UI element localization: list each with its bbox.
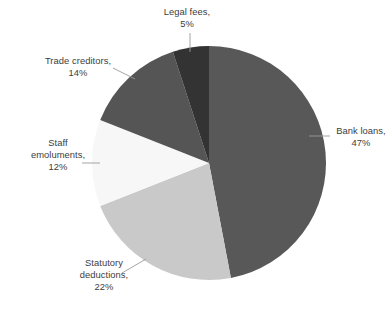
pie-label-staff-emoluments-line3: 12%: [2, 161, 114, 173]
pie-label-statutory-deductions-line1: Statutory: [42, 257, 166, 269]
pie-label-trade-creditors: Trade creditors, 14%: [16, 55, 140, 79]
pie-chart: Legal fees, 5% Trade creditors, 14% Staf…: [0, 0, 392, 310]
pie-label-bank-loans: Bank loans, 47%: [330, 125, 392, 149]
pie-label-staff-emoluments: Staff emoluments, 12%: [2, 137, 114, 174]
pie-label-legal-fees-line1: Legal fees,: [132, 6, 242, 18]
pie-label-bank-loans-line1: Bank loans,: [330, 125, 392, 137]
pie-label-legal-fees-line2: 5%: [132, 18, 242, 30]
pie-slice-bank-loans[interactable]: [209, 46, 326, 278]
pie-label-staff-emoluments-line2: emoluments,: [2, 149, 114, 161]
pie-label-trade-creditors-line2: 14%: [16, 67, 140, 79]
pie-label-statutory-deductions: Statutory deductions, 22%: [42, 257, 166, 294]
pie-label-bank-loans-line2: 47%: [330, 137, 392, 149]
pie-label-statutory-deductions-line3: 22%: [42, 281, 166, 293]
pie-label-staff-emoluments-line1: Staff: [2, 137, 114, 149]
pie-label-legal-fees: Legal fees, 5%: [132, 6, 242, 30]
pie-label-trade-creditors-line1: Trade creditors,: [16, 55, 140, 67]
pie-label-statutory-deductions-line2: deductions,: [42, 269, 166, 281]
